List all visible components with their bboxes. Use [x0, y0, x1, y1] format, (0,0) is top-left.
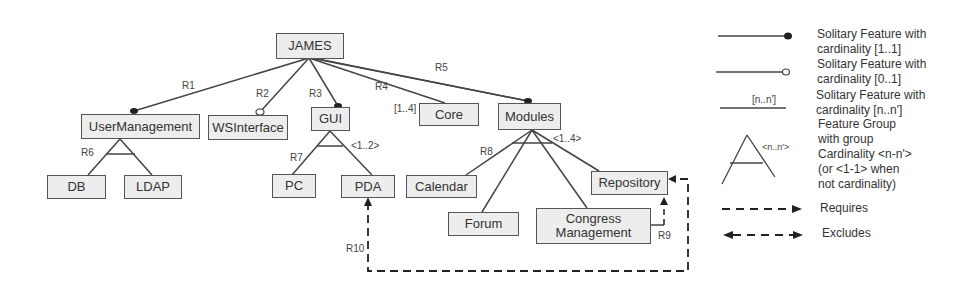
arrowhead-left-icon: [668, 175, 676, 183]
relation-label-r10: R10: [346, 243, 364, 254]
feature-gui: GUI: [311, 107, 350, 131]
feature-label: UserManagement: [89, 120, 192, 134]
legend-open-circle-icon: [783, 69, 790, 75]
feature-pda: PDA: [341, 175, 395, 198]
feature-label: PDA: [355, 180, 382, 194]
feature-label: PC: [285, 179, 303, 193]
arrowhead-up-icon: [364, 197, 372, 206]
feature-label: LDAP: [136, 180, 170, 194]
feature-usermanagement: UserManagement: [81, 114, 200, 139]
relation-label-r3: R3: [309, 88, 322, 99]
feature-label: GUI: [319, 112, 342, 126]
legend-text: (or <1-1> when: [818, 162, 912, 177]
legend-symbol-label: [n..n']: [752, 94, 776, 105]
feature-label: JAMES: [288, 39, 331, 53]
legend-text: Solitary Feature with: [817, 57, 926, 72]
legend-item-solitary-0-1: Solitary Feature with cardinality [0..1]: [817, 57, 926, 87]
legend-text: Excludes: [822, 226, 871, 241]
relation-label-r5: R5: [435, 62, 448, 73]
legend-item-solitary-1-1: Solitary Feature with cardinality [1..1]: [817, 27, 926, 57]
feature-db: DB: [47, 175, 106, 199]
feature-label: Core: [435, 108, 463, 122]
feature-forum: Forum: [448, 212, 519, 236]
legend-item-requires: Requires: [820, 201, 868, 216]
feature-label: Forum: [465, 217, 503, 231]
feature-repository: Repository: [591, 171, 668, 195]
legend-item-excludes: Excludes: [822, 226, 871, 241]
legend-text: Solitary Feature with: [816, 88, 925, 103]
relation-label-r1: R1: [182, 80, 195, 91]
cardinality-core: [1..4]: [394, 103, 416, 114]
relation-label-r7: R7: [290, 152, 303, 163]
feature-ldap: LDAP: [124, 175, 182, 199]
legend-item-solitary-n-n: Solitary Feature with cardinality [n..n'…: [816, 88, 925, 118]
feature-pc: PC: [272, 174, 316, 198]
feature-label: DB: [67, 180, 85, 194]
feature-label: Congress: [566, 212, 622, 226]
legend-arrow-right-icon: [792, 205, 802, 213]
legend-arrow-left-icon: [723, 231, 733, 239]
relation-label-r6: R6: [81, 147, 94, 158]
feature-label: Modules: [505, 110, 554, 124]
cardinality-gui-group: <1..2>: [351, 140, 379, 151]
feature-calendar: Calendar: [406, 175, 477, 198]
legend-text: Solitary Feature with: [817, 27, 926, 42]
feature-modules: Modules: [498, 103, 561, 130]
legend-text: cardinality [0..1]: [817, 72, 926, 87]
relation-label-r9: R9: [658, 230, 671, 241]
feature-model-diagram: JAMES UserManagement WSInterface GUI Cor…: [0, 0, 973, 284]
legend-item-feature-group: Feature Group with group Cardinality <n-…: [818, 117, 912, 192]
relation-label-r2: R2: [256, 88, 269, 99]
relation-label-r8: R8: [480, 146, 493, 157]
relation-label-r4: R4: [375, 81, 388, 92]
feature-label: Management: [556, 226, 632, 240]
legend-text: not cardinality): [818, 177, 912, 192]
feature-james: JAMES: [276, 33, 344, 59]
feature-label: WSInterface: [212, 121, 284, 135]
legend-text: Requires: [820, 201, 868, 216]
legend-symbol-label: <n..n'>: [762, 142, 789, 152]
feature-label: Calendar: [415, 180, 468, 194]
cardinality-modules-group: <1..4>: [553, 133, 581, 144]
legend-text: cardinality [1..1]: [817, 42, 926, 57]
legend-text: with group: [818, 132, 912, 147]
feature-congress-management: Congress Management: [536, 208, 651, 244]
legend-filled-circle-icon: [784, 33, 792, 40]
feature-wsinterface: WSInterface: [208, 115, 288, 140]
feature-label: Repository: [598, 176, 660, 190]
legend-arrow-right-icon: [793, 231, 803, 239]
legend-text: Feature Group: [818, 117, 912, 132]
legend-text: Cardinality <n-n'>: [818, 147, 912, 162]
feature-core: Core: [419, 103, 479, 126]
legend-text: cardinality [n..n']: [816, 103, 925, 118]
relation-r1-line: [134, 58, 309, 111]
